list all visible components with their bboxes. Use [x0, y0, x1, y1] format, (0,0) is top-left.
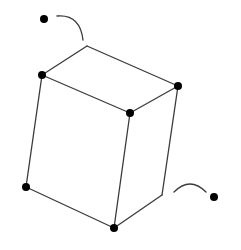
edge-topfront-bottomfront [114, 113, 130, 228]
box-edges [26, 46, 178, 228]
cuboid-diagram [0, 0, 241, 250]
dot-top-left [38, 71, 46, 79]
edge-bottomright-bottomfront [114, 195, 162, 228]
edge-topleft-topfront [42, 75, 130, 113]
edge-topright-topfront [130, 86, 178, 113]
edge-topleft-bottomleft [26, 75, 42, 187]
dot-bottom-front [110, 224, 118, 232]
rotation-arcs [57, 16, 206, 192]
edge-topback-topleft [42, 46, 87, 75]
edge-bottomleft-bottomfront [26, 187, 114, 228]
edge-topback-topright [87, 46, 178, 86]
dot-top-front [126, 109, 134, 117]
dot-lower-right-free [210, 193, 218, 201]
lower-arc [174, 184, 206, 192]
edge-topright-bottomright [162, 86, 178, 195]
dot-top-right [174, 82, 182, 90]
upper-arc [57, 16, 83, 40]
dot-bottom-left [22, 183, 30, 191]
dot-upper-left-free [40, 15, 48, 23]
